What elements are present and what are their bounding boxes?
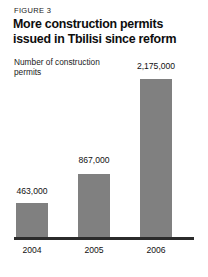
bar-value-label: 463,000 xyxy=(0,186,68,196)
x-axis-tick-label: 2005 xyxy=(66,245,122,255)
bar-value-label: 2,175,000 xyxy=(120,61,192,71)
x-axis-tick-label: 2004 xyxy=(4,245,60,255)
bar-rect xyxy=(16,203,48,237)
bar-value-label: 867,000 xyxy=(58,155,130,165)
bar-rect xyxy=(140,79,172,237)
figure-panel: FIGURE 3 More construction permits issue… xyxy=(0,0,208,277)
x-axis-tick-label: 2006 xyxy=(128,245,184,255)
chart-plot-area: 463,000 867,000 2,175,000 2004 2005 2006 xyxy=(0,0,208,277)
x-axis-baseline xyxy=(14,237,194,240)
bar-rect xyxy=(78,174,110,237)
